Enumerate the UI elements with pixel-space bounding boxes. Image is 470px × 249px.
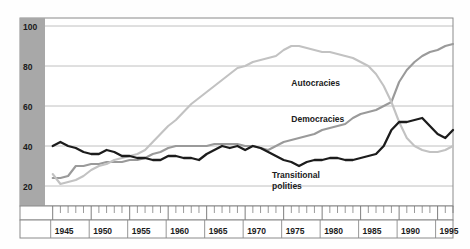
annotation-democracies: Democracies bbox=[291, 114, 344, 124]
y-tick-label-20: 20 bbox=[23, 182, 33, 192]
x-tick-label-1970: 1970 bbox=[247, 226, 266, 236]
y-tick-label-80: 80 bbox=[23, 62, 33, 72]
x-tick-label-1965: 1965 bbox=[209, 226, 228, 236]
x-tick-label-1990: 1990 bbox=[401, 226, 420, 236]
annotation-transitional-polities-line-2: polities bbox=[272, 181, 302, 191]
x-tick-label-1960: 1960 bbox=[170, 226, 189, 236]
x-tick-label-1955: 1955 bbox=[132, 226, 151, 236]
x-tick-label-1975: 1975 bbox=[286, 226, 305, 236]
x-tick-label-1995: 1995 bbox=[440, 226, 459, 236]
y-axis-band bbox=[20, 18, 45, 206]
x-tick-label-1945: 1945 bbox=[55, 226, 74, 236]
y-tick-label-40: 40 bbox=[23, 142, 33, 152]
line-chart: 20406080100 1945195019551960196519701975… bbox=[0, 0, 470, 249]
annotation-transitional-polities-line-1: Transitional bbox=[272, 170, 320, 180]
y-tick-label-100: 100 bbox=[23, 22, 37, 32]
x-tick-label-1980: 1980 bbox=[324, 226, 343, 236]
plot-background bbox=[20, 18, 453, 206]
y-tick-label-60: 60 bbox=[23, 102, 33, 112]
x-axis-tick-strip bbox=[20, 206, 453, 220]
x-tick-label-1950: 1950 bbox=[93, 226, 112, 236]
x-tick-label-1985: 1985 bbox=[363, 226, 382, 236]
x-axis-label-strip bbox=[20, 220, 453, 238]
chart-figure: 20406080100 1945195019551960196519701975… bbox=[0, 0, 470, 249]
annotation-autocracies: Autocracies bbox=[291, 78, 340, 88]
